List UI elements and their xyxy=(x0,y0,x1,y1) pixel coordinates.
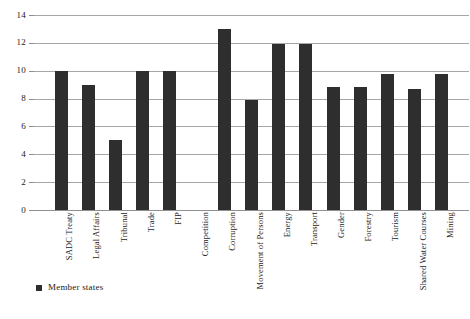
y-tick-label-2: 2 xyxy=(0,178,26,187)
bar xyxy=(109,140,122,210)
bar xyxy=(82,85,95,210)
legend: Member states xyxy=(36,283,103,292)
bar xyxy=(218,29,231,210)
x-tick-label: Transport xyxy=(310,212,319,246)
bar xyxy=(381,74,394,211)
x-tick-label: Energy xyxy=(283,212,292,237)
y-tick-label-6: 6 xyxy=(0,122,26,131)
bar xyxy=(327,87,340,210)
x-tick-label: FIP xyxy=(174,212,183,225)
y-tick-label-12: 12 xyxy=(0,38,26,47)
x-tick-label: Trade xyxy=(147,212,156,232)
x-tick-label: Tourism xyxy=(391,212,400,241)
x-tick-label: Shared Water Courses xyxy=(419,212,428,290)
bar xyxy=(435,74,448,211)
x-tick-label: Tribunal xyxy=(120,212,129,242)
bar xyxy=(55,71,68,210)
bar xyxy=(272,44,285,210)
bar xyxy=(354,87,367,210)
bar xyxy=(163,71,176,210)
bar xyxy=(408,89,421,210)
y-tick-label-4: 4 xyxy=(0,150,26,159)
legend-label: Member states xyxy=(48,283,103,292)
x-tick-label: Forestry xyxy=(364,212,373,242)
x-tick-label: Movement of Persons xyxy=(256,212,265,289)
y-tick-label-8: 8 xyxy=(0,94,26,103)
bar xyxy=(136,71,149,210)
x-tick-label: SADC Treaty xyxy=(65,212,74,260)
bar-group xyxy=(34,15,469,210)
y-tick-label-10: 10 xyxy=(0,66,26,75)
y-axis: 02468101214 xyxy=(0,15,34,210)
x-tick-label: Corruption xyxy=(228,212,237,251)
bar-chart: 02468101214 SADC TreatyLegal AffairsTrib… xyxy=(0,0,470,319)
gridline-0 xyxy=(34,210,469,211)
bar xyxy=(245,100,258,210)
x-tick-label: Mining xyxy=(446,212,455,238)
x-tick-label: Gender xyxy=(337,212,346,238)
x-tick-label: Legal Affairs xyxy=(92,212,101,259)
x-axis-label-group: SADC TreatyLegal AffairsTribunalTradeFIP… xyxy=(34,212,469,292)
y-tick-label-0: 0 xyxy=(0,206,26,215)
x-tick-label: Competition xyxy=(201,212,210,256)
bar xyxy=(299,44,312,210)
legend-swatch-icon xyxy=(36,285,42,291)
y-tick-label-14: 14 xyxy=(0,11,26,20)
